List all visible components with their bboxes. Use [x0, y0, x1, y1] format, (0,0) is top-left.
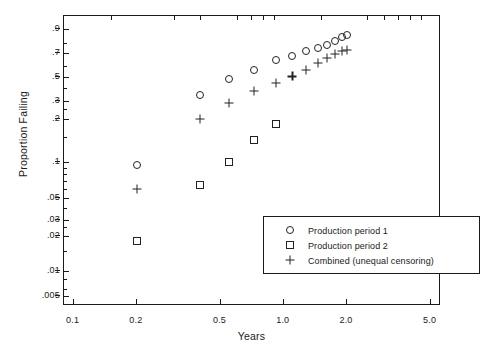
x-major-tick: [283, 299, 284, 305]
legend-label: Production period 2: [308, 241, 388, 251]
y-minor-tick: [64, 168, 67, 169]
y-tick-mark: [55, 118, 60, 119]
data-point-square: [133, 237, 141, 245]
x-major-tick: [136, 299, 137, 305]
y-tick-mark: [55, 161, 60, 162]
data-point-circle: [250, 66, 258, 74]
y-major-tick: [64, 198, 69, 199]
y-major-tick: [64, 220, 69, 221]
data-point-square: [272, 120, 280, 128]
y-minor-tick: [64, 208, 67, 209]
data-point-plus: [313, 58, 322, 67]
data-point-plus: [132, 184, 141, 193]
y-tick-mark: [55, 270, 60, 271]
data-point-plus: [286, 256, 295, 265]
y-tick-mark: [55, 197, 60, 198]
data-point-circle: [286, 226, 294, 234]
data-point-circle: [196, 91, 204, 99]
data-point-plus: [302, 65, 311, 74]
y-minor-tick: [64, 43, 67, 44]
y-tick-mark: [55, 295, 60, 296]
y-minor-tick: [64, 174, 67, 175]
x-minor-tick: [200, 16, 201, 20]
y-major-tick: [64, 236, 69, 237]
y-major-tick: [64, 296, 69, 297]
chart-legend: Production period 1Production period 2Co…: [263, 216, 480, 274]
data-point-circle: [323, 41, 331, 49]
data-point-square: [286, 241, 294, 249]
x-tick-label: 5.0: [423, 315, 436, 325]
data-point-square: [250, 136, 258, 144]
y-minor-tick: [64, 289, 67, 290]
y-minor-tick: [64, 189, 67, 190]
y-minor-tick: [64, 66, 67, 67]
data-point-plus: [288, 72, 297, 81]
legend-label: Production period 1: [308, 226, 388, 236]
legend-item: Production period 1: [264, 223, 479, 238]
y-axis-tick-labels: .9.7.5.3.2.1.05.03.02.01.005: [22, 15, 60, 305]
legend-marker-square: [264, 238, 308, 253]
y-minor-tick: [64, 137, 67, 138]
y-major-tick: [64, 271, 69, 272]
data-point-circle: [133, 161, 141, 169]
legend-label: Combined (unequal censoring): [308, 256, 434, 266]
x-tick-label: 0.5: [213, 315, 226, 325]
legend-marker-circle: [264, 223, 308, 238]
x-minor-tick: [251, 16, 252, 20]
data-point-circle: [288, 52, 296, 60]
y-minor-tick: [64, 279, 67, 280]
data-point-circle: [314, 44, 322, 52]
x-tick-label: 2.0: [339, 315, 352, 325]
x-minor-tick: [410, 16, 411, 20]
y-major-tick: [64, 101, 69, 102]
y-minor-tick: [64, 227, 67, 228]
y-major-tick: [64, 162, 69, 163]
data-point-circle: [331, 37, 339, 45]
x-minor-tick: [398, 16, 399, 20]
x-minor-tick: [174, 16, 175, 20]
x-major-tick: [346, 299, 347, 305]
x-major-tick: [73, 299, 74, 305]
y-tick-mark: [55, 100, 60, 101]
x-major-tick: [220, 299, 221, 305]
x-tick-label: 0.2: [129, 315, 142, 325]
y-tick-mark: [55, 235, 60, 236]
data-point-plus: [225, 98, 234, 107]
x-minor-tick: [367, 16, 368, 20]
y-major-tick: [64, 53, 69, 54]
y-tick-mark: [55, 52, 60, 53]
y-minor-tick: [64, 251, 67, 252]
plot-area: Production period 1Production period 2Co…: [63, 15, 440, 305]
x-minor-tick: [274, 16, 275, 20]
y-major-tick: [64, 119, 69, 120]
x-major-tick: [430, 299, 431, 305]
y-tick-mark: [55, 76, 60, 77]
legend-item: Production period 2: [264, 238, 479, 253]
x-minor-tick: [111, 16, 112, 20]
y-minor-tick: [64, 109, 67, 110]
y-tick-mark: [55, 28, 60, 29]
data-point-plus: [343, 46, 352, 55]
data-point-circle: [272, 56, 280, 64]
legend-item: Combined (unequal censoring): [264, 253, 479, 268]
legend-marker-plus: [264, 253, 308, 268]
x-minor-tick: [263, 16, 264, 20]
x-axis-title: Years: [63, 330, 440, 342]
x-minor-tick: [237, 16, 238, 20]
data-point-plus: [249, 86, 258, 95]
data-point-circle: [302, 47, 310, 55]
data-point-plus: [196, 115, 205, 124]
y-tick-mark: [55, 219, 60, 220]
y-minor-tick: [64, 88, 67, 89]
data-point-square: [225, 158, 233, 166]
y-major-tick: [64, 29, 69, 30]
x-minor-tick: [421, 16, 422, 20]
data-point-circle: [343, 31, 351, 39]
data-point-square: [196, 181, 204, 189]
x-minor-tick: [321, 16, 322, 20]
data-point-circle: [225, 75, 233, 83]
y-minor-tick: [64, 181, 67, 182]
x-tick-label: 1.0: [276, 315, 289, 325]
y-major-tick: [64, 77, 69, 78]
